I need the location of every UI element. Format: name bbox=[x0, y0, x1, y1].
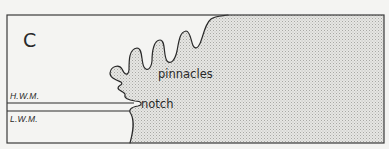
notch-label: notch bbox=[141, 99, 173, 111]
lwm-label: L.W.M. bbox=[10, 115, 38, 124]
panel-letter: C bbox=[23, 31, 36, 50]
coastal-profile-diagram: C H.W.M. L.W.M. pinnacles notch bbox=[0, 0, 389, 149]
rock-mass bbox=[110, 15, 384, 143]
hwm-label: H.W.M. bbox=[10, 92, 39, 101]
pinnacles-label: pinnacles bbox=[158, 69, 213, 81]
